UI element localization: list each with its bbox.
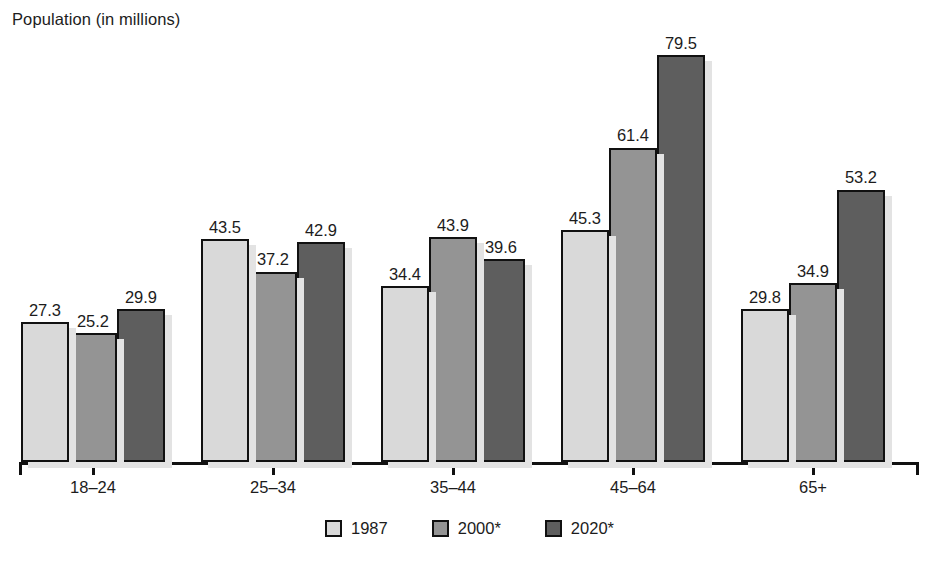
bar-value-label: 37.2: [256, 251, 290, 268]
bar-value-label: 34.9: [796, 263, 830, 280]
bar[interactable]: 53.2: [837, 190, 885, 462]
bar-value-label: 27.3: [28, 302, 62, 319]
bar-fill: [741, 309, 789, 462]
legend-swatch: [432, 520, 449, 537]
bar-value-label: 61.4: [616, 127, 650, 144]
bar-value-label: 29.8: [748, 289, 782, 306]
x-axis-end-cap: [916, 462, 919, 475]
bar-fill: [381, 286, 429, 462]
legend-label: 2000*: [458, 519, 501, 538]
x-axis-label: 35–44: [430, 478, 476, 497]
bar[interactable]: 34.9: [789, 283, 837, 462]
bar-fill: [21, 322, 69, 462]
bar-value-label: 45.3: [568, 210, 602, 227]
bar[interactable]: 79.5: [657, 55, 705, 462]
bar[interactable]: 29.9: [117, 309, 165, 462]
legend-item[interactable]: 1987: [325, 519, 388, 538]
bar[interactable]: 34.4: [381, 286, 429, 462]
bar[interactable]: 39.6: [477, 259, 525, 462]
population-bar-chart: Population (in millions) 27.325.229.943.…: [0, 0, 939, 565]
bar-fill: [789, 283, 837, 462]
bar-value-label: 34.4: [388, 266, 422, 283]
x-axis-label: 65+: [799, 478, 827, 497]
bar-fill: [297, 242, 345, 462]
bar-fill: [561, 230, 609, 462]
bar-fill: [837, 190, 885, 462]
plot-area: 27.325.229.943.537.242.934.443.939.645.3…: [0, 0, 939, 465]
bar[interactable]: 43.5: [201, 239, 249, 462]
legend-swatch: [545, 520, 562, 537]
bar[interactable]: 45.3: [561, 230, 609, 462]
bar-value-label: 42.9: [304, 222, 338, 239]
bar-fill: [201, 239, 249, 462]
x-axis-label: 18–24: [70, 478, 116, 497]
bar[interactable]: 37.2: [249, 272, 297, 462]
x-axis-label: 25–34: [250, 478, 296, 497]
legend-item[interactable]: 2000*: [432, 519, 501, 538]
bar-fill: [477, 259, 525, 462]
chart-legend: 19872000*2020*: [0, 519, 939, 538]
bar-value-label: 53.2: [844, 169, 878, 186]
bar-fill: [117, 309, 165, 462]
legend-item[interactable]: 2020*: [545, 519, 614, 538]
bar-fill: [69, 333, 117, 462]
legend-label: 2020*: [571, 519, 614, 538]
bar[interactable]: 43.9: [429, 237, 477, 462]
legend-label: 1987: [351, 519, 388, 538]
bar[interactable]: 42.9: [297, 242, 345, 462]
bar-value-label: 25.2: [76, 313, 110, 330]
bar-value-label: 29.9: [124, 289, 158, 306]
bar[interactable]: 27.3: [21, 322, 69, 462]
bar-fill: [609, 148, 657, 462]
bar-value-label: 79.5: [664, 35, 698, 52]
bar-fill: [429, 237, 477, 462]
x-axis-label: 45–64: [610, 478, 656, 497]
bar-value-label: 43.5: [208, 219, 242, 236]
bar[interactable]: 25.2: [69, 333, 117, 462]
legend-swatch: [325, 520, 342, 537]
bar[interactable]: 29.8: [741, 309, 789, 462]
bar-fill: [249, 272, 297, 462]
bar-value-label: 39.6: [484, 239, 518, 256]
bar-fill: [657, 55, 705, 462]
x-axis-start-cap: [19, 462, 22, 475]
bar-value-label: 43.9: [436, 217, 470, 234]
bar[interactable]: 61.4: [609, 148, 657, 462]
